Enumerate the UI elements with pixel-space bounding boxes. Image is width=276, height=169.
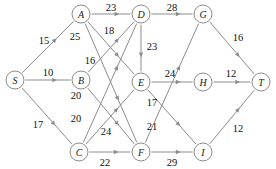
edge-arrowhead-icon bbox=[176, 80, 181, 84]
node-e[interactable]: E bbox=[132, 73, 150, 91]
nodes-layer: SABCDEFGHIT bbox=[6, 5, 270, 161]
edge-arrowhead-icon bbox=[114, 150, 119, 154]
node-label: B bbox=[78, 75, 84, 86]
edge-weight-label: 20 bbox=[71, 113, 82, 124]
edge-weight-label: 15 bbox=[39, 35, 50, 46]
edge-i-t bbox=[210, 90, 255, 144]
node-label: F bbox=[137, 147, 145, 158]
node-label: I bbox=[200, 147, 205, 158]
edge-h-t bbox=[214, 80, 251, 84]
node-s[interactable]: S bbox=[6, 71, 24, 89]
edge-weight-label: 22 bbox=[100, 157, 111, 168]
edge-weight-label: 23 bbox=[147, 41, 158, 52]
network-diagram: 1510172318251620202422282324172129161212… bbox=[0, 0, 276, 169]
node-label: C bbox=[76, 147, 83, 158]
node-label: H bbox=[198, 77, 207, 88]
edge-weight-label: 23 bbox=[106, 2, 117, 13]
edge-line bbox=[22, 88, 72, 144]
edge-weight-label: 24 bbox=[165, 68, 176, 79]
graph-canvas: 1510172318251620202422282324172129161212… bbox=[0, 0, 276, 169]
edge-weight-label: 25 bbox=[70, 31, 81, 42]
node-t[interactable]: T bbox=[252, 73, 270, 91]
edge-c-f bbox=[90, 150, 131, 154]
edge-weight-label: 29 bbox=[167, 157, 178, 168]
edge-f-i bbox=[152, 150, 193, 154]
edge-weight-label: 24 bbox=[101, 126, 112, 137]
edge-weight-label: 12 bbox=[233, 123, 244, 134]
edge-weight-label: 28 bbox=[167, 2, 178, 13]
edge-weight-label: 10 bbox=[43, 67, 54, 78]
edge-arrowhead-icon bbox=[139, 53, 143, 58]
node-d[interactable]: D bbox=[132, 5, 150, 23]
edge-arrowhead-icon bbox=[176, 150, 181, 154]
edge-line bbox=[22, 21, 73, 72]
edge-weight-label: 16 bbox=[233, 32, 244, 43]
edge-weight-label: 17 bbox=[147, 97, 158, 108]
edge-weight-label: 12 bbox=[226, 68, 237, 79]
node-label: A bbox=[77, 9, 85, 20]
edge-weight-label: 20 bbox=[71, 90, 82, 101]
edge-s-c bbox=[22, 88, 72, 144]
edge-s-b bbox=[26, 78, 71, 82]
edge-weight-label: 16 bbox=[85, 55, 96, 66]
edge-arrowhead-icon bbox=[235, 80, 240, 84]
edge-weight-label: 17 bbox=[33, 119, 44, 130]
node-label: D bbox=[136, 9, 145, 20]
node-h[interactable]: H bbox=[194, 73, 212, 91]
node-label: G bbox=[199, 9, 206, 20]
edge-line bbox=[210, 90, 255, 144]
edge-d-e bbox=[139, 25, 143, 72]
node-c[interactable]: C bbox=[70, 143, 88, 161]
edge-weight-label: 21 bbox=[147, 121, 158, 132]
node-a[interactable]: A bbox=[72, 5, 90, 23]
edge-g-t bbox=[210, 22, 254, 74]
node-label: S bbox=[13, 75, 18, 86]
edge-line bbox=[210, 22, 254, 74]
node-b[interactable]: B bbox=[72, 71, 90, 89]
edge-s-a bbox=[22, 21, 73, 72]
node-label: E bbox=[137, 77, 144, 88]
node-g[interactable]: G bbox=[194, 5, 212, 23]
edge-arrowhead-icon bbox=[52, 78, 57, 82]
node-f[interactable]: F bbox=[132, 143, 150, 161]
edge-weight-label: 18 bbox=[104, 25, 115, 36]
node-i[interactable]: I bbox=[194, 143, 212, 161]
